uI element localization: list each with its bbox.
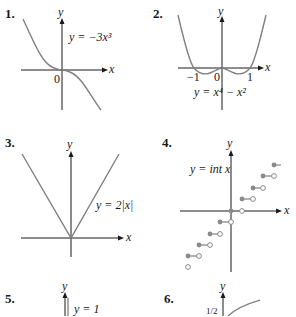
axis-y-label: y xyxy=(227,136,232,151)
graph-2: 2. y x −1 0 1 y = x⁴ − x² xyxy=(148,0,296,110)
axis-x-label: x xyxy=(265,60,270,75)
graph-1-plot xyxy=(0,0,148,110)
equation-label: y = int x xyxy=(190,162,230,177)
tick-neg-1: −1 xyxy=(187,70,200,85)
equation-label: y = −3x³ xyxy=(69,30,111,45)
equation-label: y = 2|x| xyxy=(96,198,133,213)
axis-x-label: x xyxy=(284,203,289,218)
axis-y-label: y xyxy=(67,137,72,152)
graph-4: 4. y x xyxy=(148,130,296,280)
graph-1: 1. y x 0 y = −3x³ xyxy=(0,0,148,110)
axis-y-label: y xyxy=(218,4,223,19)
axis-y-label: y xyxy=(62,279,67,294)
partial-label: 1/2 xyxy=(206,306,218,316)
graph-6: 6. y 1/2 xyxy=(148,282,296,316)
graph-3: 3. y x y = 2|x| xyxy=(0,130,148,260)
equation-label: y = x⁴ − x² xyxy=(194,85,246,100)
tick-1: 1 xyxy=(247,70,253,85)
origin-label: 0 xyxy=(54,72,60,87)
tick-0: 0 xyxy=(214,70,220,85)
axis-x-label: x xyxy=(126,230,131,245)
graph-5: 5. y y = 1 xyxy=(0,282,148,316)
axis-x-label: x xyxy=(109,62,114,77)
axis-y-label: y xyxy=(220,279,225,294)
equation-label: y = 1 xyxy=(74,302,99,317)
graph-4-plot xyxy=(148,130,296,280)
axis-y-label: y xyxy=(58,5,63,20)
